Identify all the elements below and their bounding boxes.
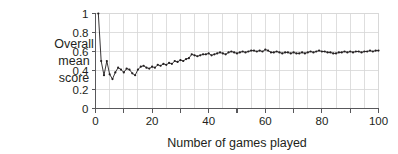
data-point	[227, 51, 229, 53]
data-point	[366, 50, 368, 52]
data-point	[174, 60, 176, 62]
data-point	[270, 51, 272, 53]
data-point	[278, 51, 280, 53]
data-point	[159, 65, 161, 67]
data-point	[343, 50, 345, 52]
data-point	[276, 50, 278, 52]
data-point	[312, 51, 314, 53]
data-point	[318, 49, 320, 51]
y-axis-title-line: score	[59, 71, 90, 85]
data-point	[128, 68, 130, 70]
data-point	[196, 55, 198, 57]
data-point	[168, 62, 170, 64]
data-point	[148, 68, 150, 70]
data-point	[329, 51, 331, 53]
data-point	[182, 60, 184, 62]
data-point	[377, 49, 379, 51]
data-point	[355, 50, 357, 52]
data-point	[284, 51, 286, 53]
y-tick-label: 1	[82, 8, 88, 20]
data-point	[244, 51, 246, 53]
data-point	[202, 53, 204, 55]
data-point	[208, 52, 210, 54]
data-point	[213, 53, 215, 55]
data-point	[131, 72, 133, 74]
data-point	[369, 49, 371, 51]
data-point	[134, 74, 136, 76]
x-tick-label: 80	[316, 115, 329, 127]
data-point	[157, 64, 159, 66]
data-point	[352, 51, 354, 53]
data-point	[290, 52, 292, 54]
data-point	[193, 54, 195, 56]
data-point	[326, 51, 328, 53]
data-point	[109, 73, 111, 75]
data-point	[230, 50, 232, 52]
x-tick-label: 0	[92, 115, 98, 127]
y-axis-title-line: mean	[58, 54, 89, 68]
x-tick-label: 40	[202, 115, 215, 127]
data-point	[259, 49, 261, 51]
x-axis-title: Number of games played	[167, 136, 307, 150]
data-point	[295, 52, 297, 54]
data-point	[273, 51, 275, 53]
data-point	[247, 50, 249, 52]
data-point	[111, 78, 113, 80]
data-point	[117, 67, 119, 69]
data-point	[335, 52, 337, 54]
data-point	[264, 49, 266, 51]
data-point	[341, 51, 343, 53]
data-point	[126, 68, 128, 70]
y-axis-title: Overallmeanscore	[54, 37, 94, 85]
data-point	[106, 60, 108, 62]
data-point	[293, 51, 295, 53]
y-tick-label: 0	[82, 103, 88, 115]
data-point	[103, 74, 105, 76]
data-point	[338, 51, 340, 53]
data-point	[250, 49, 252, 51]
data-point	[304, 52, 306, 54]
data-point	[222, 52, 224, 54]
line-chart: 00.20.40.60.81 020406080100 Overallmeans…	[0, 0, 398, 154]
x-tick-label: 100	[369, 115, 388, 127]
data-point	[123, 71, 125, 73]
data-point	[179, 59, 181, 61]
data-point	[301, 51, 303, 53]
data-point	[287, 51, 289, 53]
data-point	[216, 52, 218, 54]
data-point	[315, 50, 317, 52]
data-point	[236, 52, 238, 54]
data-point	[363, 50, 365, 52]
data-point	[281, 52, 283, 54]
x-tick-label: 20	[146, 115, 159, 127]
data-point	[162, 63, 164, 65]
data-point	[242, 50, 244, 52]
data-point	[154, 67, 156, 69]
data-point	[151, 66, 153, 68]
data-point	[191, 53, 193, 55]
data-point	[97, 12, 99, 14]
data-point	[219, 51, 221, 53]
data-point	[360, 51, 362, 53]
data-point	[256, 50, 258, 52]
y-tick-label: 0.2	[73, 84, 89, 96]
data-point	[145, 67, 147, 69]
data-point	[261, 50, 263, 52]
chart-figure: 00.20.40.60.81 020406080100 Overallmeans…	[0, 0, 398, 154]
data-point	[165, 64, 167, 66]
data-point	[100, 60, 102, 62]
data-point	[185, 58, 187, 60]
data-point	[176, 61, 178, 63]
data-point	[253, 49, 255, 51]
y-axis-title-line: Overall	[54, 37, 94, 51]
data-point	[358, 50, 360, 52]
data-point	[137, 68, 139, 70]
data-point	[210, 54, 212, 56]
data-point	[140, 66, 142, 68]
data-point	[375, 49, 377, 51]
data-point	[298, 52, 300, 54]
data-point	[225, 53, 227, 55]
data-point	[143, 65, 145, 67]
data-point	[321, 50, 323, 52]
data-point	[349, 50, 351, 52]
